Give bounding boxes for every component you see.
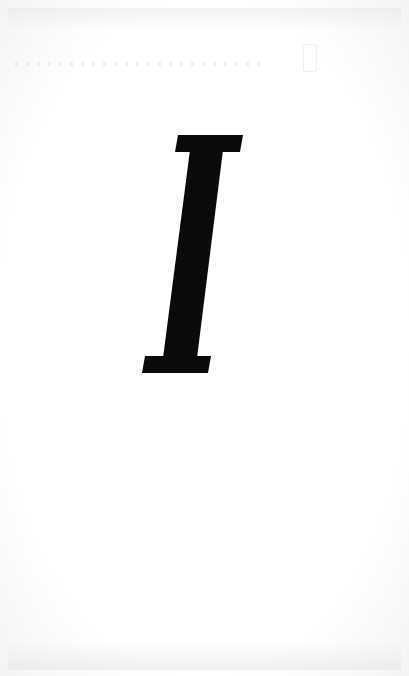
letter-i-glyph: I xyxy=(0,0,409,676)
document-page: I xyxy=(0,0,409,676)
letter-bottom-serif xyxy=(142,356,211,373)
letter-top-serif xyxy=(175,135,243,152)
letter-stem xyxy=(163,150,223,358)
